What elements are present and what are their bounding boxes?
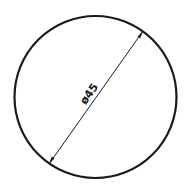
diameter-diagram: ø45 — [0, 0, 189, 196]
diameter-dimension-line — [49, 31, 143, 164]
diameter-label: ø45 — [77, 81, 101, 107]
circle-outline — [15, 16, 177, 178]
